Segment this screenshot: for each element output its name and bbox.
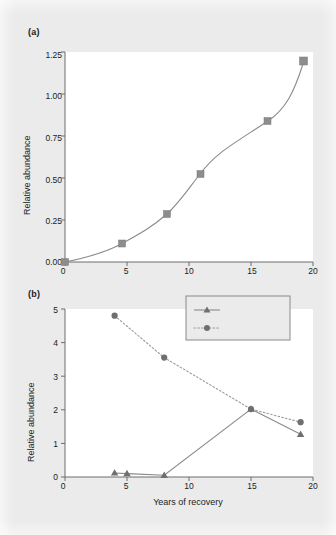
panel-b-y-ticks xyxy=(61,309,65,477)
legend-box xyxy=(186,296,290,340)
panel-a-y-ticks xyxy=(61,52,65,262)
figure-container: (a) Relative abundance 1.25 1.00 0.75 0.… xyxy=(0,0,336,535)
panel-b: (b) Relative abundance Years of recovery… xyxy=(0,278,336,535)
panel-a: (a) Relative abundance 1.25 1.00 0.75 0.… xyxy=(0,0,336,278)
panel-a-x-ticks xyxy=(65,262,313,266)
panel-b-x-ticks xyxy=(65,477,313,481)
panel-a-plot-area xyxy=(65,52,313,262)
panel-a-plot xyxy=(0,0,336,278)
panel-b-plot xyxy=(0,278,336,535)
